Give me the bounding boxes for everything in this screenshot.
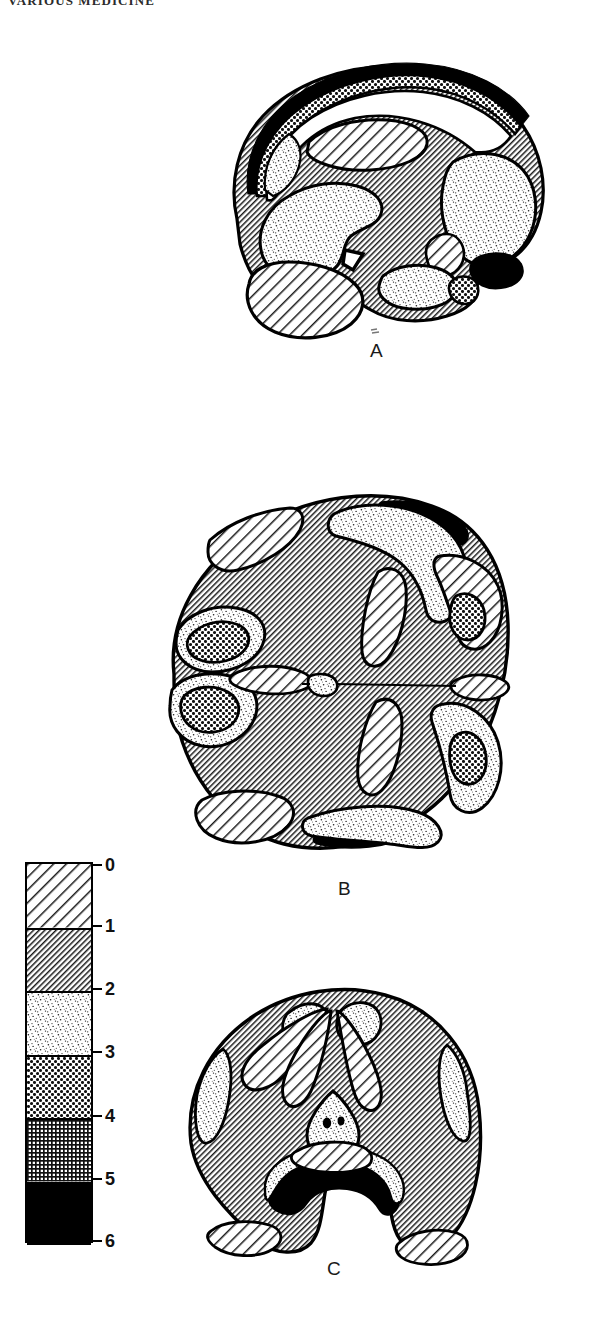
- legend-tick-list: 0 1 2 3 4 5 6: [93, 862, 153, 1243]
- legend-tick-dash-5: [93, 1178, 102, 1181]
- panel-b-label: B: [338, 878, 351, 900]
- legend-tick-dash-1: [93, 925, 102, 928]
- legend-band-4-5: [27, 1118, 91, 1182]
- legend-tick-0: 0: [93, 856, 115, 874]
- panel-a-black-focus-level5: [470, 253, 523, 288]
- legend-tick-6: 6: [93, 1232, 115, 1250]
- panel-b-midline-leaf-right-level0: [451, 675, 509, 700]
- legend-band-0-1: [27, 864, 91, 928]
- panel-c-hatch-lobule-bottom-left-level0: [208, 1222, 281, 1256]
- legend-tick-label-2: 2: [105, 980, 115, 998]
- panel-b-checker-nucleus-right-level3: [450, 594, 485, 640]
- panel-c-coronal-section: C: [165, 975, 505, 1275]
- panel-a-stipple-ventral-level2: [379, 265, 457, 309]
- legend-tick-2: 2: [93, 980, 115, 998]
- legend-band-5-6: [27, 1182, 91, 1246]
- panel-b-midline-leaf-left-level0: [230, 666, 311, 694]
- legend-tick-label-5: 5: [105, 1170, 115, 1188]
- legend-tick-dash-3: [93, 1051, 102, 1054]
- panel-c-teardrop-dot-right: [338, 1117, 345, 1126]
- panel-a-label: A: [370, 340, 383, 362]
- legend-tick-dash-4: [93, 1115, 102, 1118]
- legend-tick-label-6: 6: [105, 1232, 115, 1250]
- legend-band-3-4: [27, 1055, 91, 1119]
- panel-a-sagittal-section: A: [185, 44, 550, 359]
- figure-page: VARIOUS MEDICINE: [0, 0, 590, 1338]
- panel-b-midline-nub-level2: [308, 674, 337, 696]
- panel-b-checker-nucleus-lower-left-level3: [181, 687, 239, 732]
- legend-tick-3: 3: [93, 1043, 115, 1061]
- legend-tick-label-4: 4: [105, 1107, 115, 1125]
- panel-c-teardrop-dot-left: [323, 1118, 331, 1129]
- legend-tick-5: 5: [93, 1170, 115, 1188]
- legend-band-2-3: [27, 991, 91, 1055]
- panel-a-checker-nucleus-level3: [449, 277, 478, 304]
- panel-c-label: C: [327, 1258, 341, 1280]
- density-scale-legend: 0 1 2 3 4 5 6: [25, 862, 93, 1243]
- legend-tick-dash-0: [93, 864, 102, 867]
- panel-c-ventral-hatch-bar-level0: [291, 1142, 371, 1172]
- panel-b-horizontal-section: B: [150, 478, 520, 868]
- legend-tick-4: 4: [93, 1107, 115, 1125]
- running-head: VARIOUS MEDICINE: [8, 0, 155, 9]
- legend-tick-dash-6: [93, 1240, 102, 1243]
- legend-tick-dash-2: [93, 988, 102, 991]
- legend-tick-label-0: 0: [105, 856, 115, 874]
- panel-b-checker-nucleus-lower-right-level3: [450, 732, 487, 784]
- legend-box: [25, 862, 93, 1243]
- legend-tick-1: 1: [93, 917, 115, 935]
- legend-tick-label-3: 3: [105, 1043, 115, 1061]
- legend-tick-label-1: 1: [105, 917, 115, 935]
- panel-b-hatch-lobule-bottom-left-level0: [196, 791, 294, 843]
- panel-a-stray-mark: [371, 329, 379, 333]
- legend-band-1-2: [27, 928, 91, 992]
